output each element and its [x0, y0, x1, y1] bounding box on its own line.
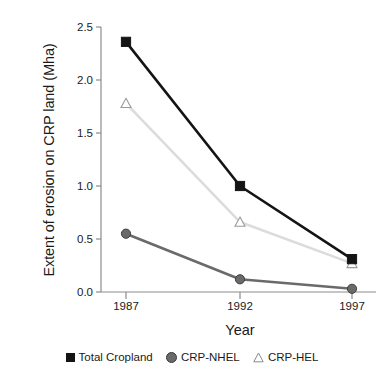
chart-figure: Extent of erosion on CRP land (Mha) 0.0 …	[0, 0, 384, 384]
data-series-group	[121, 37, 357, 293]
legend-label: Total Cropland	[79, 351, 153, 363]
circle-marker-icon	[166, 352, 177, 363]
chart-legend: Total Cropland CRP-NHEL CRP-HEL	[0, 350, 384, 363]
legend-item-crp-nhel: CRP-NHEL	[166, 350, 240, 363]
triangle-marker-icon	[253, 352, 264, 363]
legend-label: CRP-HEL	[268, 351, 318, 363]
x-axis-title: Year	[120, 322, 360, 338]
legend-item-crp-hel: CRP-HEL	[253, 350, 318, 363]
legend-item-total-cropland: Total Cropland	[66, 350, 153, 363]
legend-label: CRP-NHEL	[181, 351, 240, 363]
axes-lines	[96, 27, 376, 299]
square-marker-icon	[66, 353, 75, 362]
